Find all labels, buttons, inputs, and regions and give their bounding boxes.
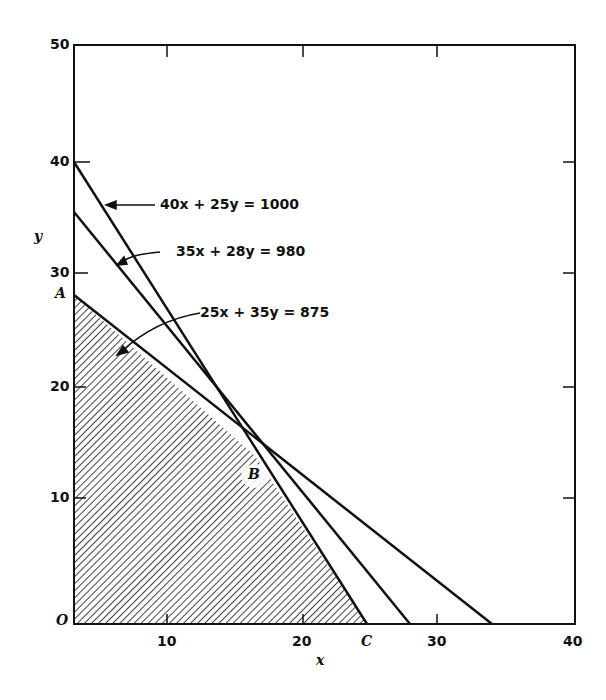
x-tick-40: 40 <box>563 633 582 649</box>
equation-label-3: 25x + 35y = 875 <box>200 304 329 320</box>
y-tick-50: 50 <box>50 36 69 52</box>
feasible-region <box>74 295 367 624</box>
point-a-label: A <box>55 285 66 301</box>
x-tick-30: 30 <box>427 633 446 649</box>
y-tick-10: 10 <box>50 489 69 505</box>
x-tick-20: 20 <box>292 633 311 649</box>
chart-canvas <box>0 0 606 700</box>
equation-label-1: 40x + 25y = 1000 <box>160 196 299 212</box>
x-tick-10: 10 <box>157 633 176 649</box>
equation-label-2: 35x + 28y = 980 <box>176 243 305 259</box>
y-tick-40: 40 <box>50 153 69 169</box>
y-tick-30: 30 <box>50 264 69 280</box>
x-axis-label: x <box>316 652 324 668</box>
point-c-label: C <box>361 633 372 649</box>
point-b-label: B <box>248 466 260 482</box>
y-axis-label: y <box>34 228 42 244</box>
y-tick-20: 20 <box>50 378 69 394</box>
point-o-label: O <box>56 612 68 628</box>
